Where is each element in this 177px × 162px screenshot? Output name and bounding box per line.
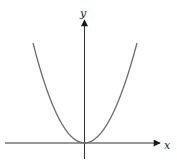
x-axis-label: x: [164, 139, 171, 152]
y-axis-label: y: [79, 7, 87, 20]
parabola-chart: y x: [0, 0, 177, 162]
